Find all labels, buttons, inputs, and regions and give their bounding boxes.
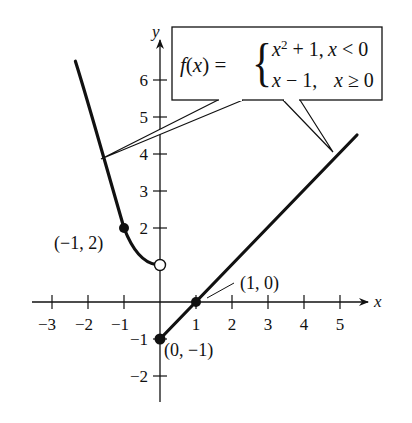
x-tick-label: −2 <box>75 315 93 334</box>
x-axis-label: x <box>373 292 382 311</box>
formula-callout: f(x) = { x2 + 1, x < 0 x − 1, x ≥ 0 <box>101 27 382 159</box>
linear-branch <box>160 135 357 339</box>
y-tick-label: 4 <box>140 145 149 164</box>
x-tick-label: −1 <box>111 315 129 334</box>
x-tick-label: 1 <box>192 315 201 334</box>
point-closed-neg1-2 <box>119 223 129 233</box>
point-closed-1-0 <box>191 297 201 307</box>
label-1-0: (1, 0) <box>240 273 279 294</box>
label-neg1-2: (−1, 2) <box>54 233 103 254</box>
case-2-cond: x ≥ 0 <box>333 69 374 91</box>
y-axis-label: y <box>150 22 160 41</box>
x-tick-labels: −3 −2 −1 1 2 3 4 5 <box>38 315 344 334</box>
case-2-expr: x − 1, <box>271 69 317 91</box>
x-axis: x <box>32 292 382 311</box>
point-open-0-1 <box>155 260 166 271</box>
y-tick-label: −2 <box>130 367 148 386</box>
y-tick-label: 6 <box>140 71 149 90</box>
y-tick-labels: 6 5 4 3 2 −1 −2 <box>130 71 149 386</box>
case-1-cond: x < 0 <box>327 38 368 60</box>
x-tick-label: −3 <box>38 315 56 334</box>
x-tick-label: 2 <box>228 315 237 334</box>
y-tick-label: −1 <box>130 330 148 349</box>
y-tick-label: 3 <box>140 182 149 201</box>
case-1-expr: x2 + 1, <box>271 37 324 60</box>
label-0-neg1: (0, −1) <box>164 340 213 361</box>
formula-lhs: f(x) = <box>180 53 226 77</box>
brace-icon: { <box>252 34 272 91</box>
x-tick-label: 4 <box>300 315 309 334</box>
y-axis: y <box>150 22 160 402</box>
piecewise-function-graph: x y −3 −2 −1 1 2 3 4 5 6 5 4 3 <box>0 0 412 423</box>
x-tick-label: 3 <box>264 315 273 334</box>
y-tick-label: 2 <box>140 219 149 238</box>
x-tick-label: 5 <box>336 315 345 334</box>
y-tick-label: 5 <box>140 108 149 127</box>
